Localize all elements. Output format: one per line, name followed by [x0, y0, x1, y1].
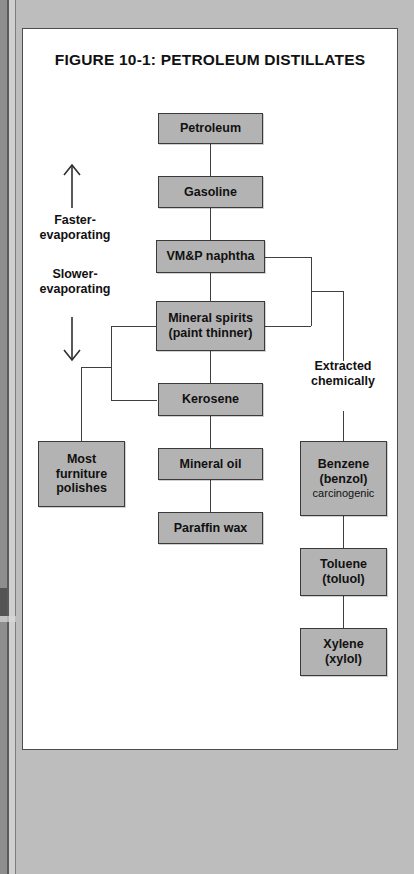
node-gasoline[interactable]: Gasoline	[158, 176, 263, 208]
scan-edge-rule-inner	[15, 0, 16, 874]
connector-left-to-polishes	[81, 367, 82, 441]
node-xylene-line2: (xylol)	[325, 652, 362, 667]
node-toluene-line2: (toluol)	[322, 572, 364, 587]
slower-evaporating-line2: evaporating	[40, 282, 111, 296]
scan-artifact	[0, 588, 7, 616]
scan-edge-dark	[0, 0, 7, 874]
node-naphtha[interactable]: VM&P naphtha	[156, 240, 265, 273]
node-mineral-oil[interactable]: Mineral oil	[158, 448, 263, 480]
connector-mineral-oil-paraffin	[210, 480, 211, 512]
node-furniture-polishes-line1: Most	[67, 452, 96, 467]
scan-artifact-highlight	[0, 616, 16, 622]
node-benzene-line2: (benzol)	[320, 472, 368, 487]
page-background: FIGURE 10-1: PETROLEUM DISTILLATES	[0, 0, 414, 874]
diagram-canvas: Petroleum Gasoline VM&P naphtha Mineral …	[23, 29, 399, 751]
arrow-down-icon	[61, 317, 83, 363]
extracted-chemically-label: Extracted chemically	[295, 359, 391, 389]
node-paraffin-wax[interactable]: Paraffin wax	[158, 512, 263, 544]
node-mineral-spirits[interactable]: Mineral spirits (paint thinner)	[156, 301, 265, 351]
node-benzene[interactable]: Benzene (benzol) carcinogenic	[300, 441, 387, 516]
connector-benzene-toluene	[343, 516, 344, 548]
faster-evaporating-line2: evaporating	[40, 228, 111, 242]
node-xylene[interactable]: Xylene (xylol)	[300, 628, 387, 676]
connector-naphtha-mineral-spirits	[210, 273, 211, 301]
node-mineral-oil-label: Mineral oil	[180, 457, 242, 472]
connector-extracted-to-benzene	[343, 411, 344, 441]
node-furniture-polishes[interactable]: Most furniture polishes	[38, 441, 125, 507]
connector-petroleum-gasoline	[210, 144, 211, 176]
node-kerosene[interactable]: Kerosene	[158, 383, 263, 416]
extracted-chemically-line2: chemically	[311, 374, 375, 388]
node-toluene-line1: Toluene	[320, 557, 367, 572]
connector-kerosene-left-stub	[111, 400, 157, 401]
node-kerosene-label: Kerosene	[182, 392, 239, 407]
extracted-chemically-line1: Extracted	[315, 359, 372, 373]
arrow-up-icon	[61, 162, 83, 208]
node-mineral-spirits-label-line2: (paint thinner)	[168, 326, 252, 341]
connector-right-jog	[311, 291, 343, 292]
connector-mineral-spirits-left-stub	[111, 326, 157, 327]
node-benzene-note: carcinogenic	[313, 487, 375, 500]
node-xylene-line1: Xylene	[323, 637, 363, 652]
node-naphtha-label: VM&P naphtha	[167, 249, 255, 264]
connector-mineral-spirits-kerosene	[210, 351, 211, 383]
node-paraffin-wax-label: Paraffin wax	[174, 521, 248, 536]
node-benzene-line1: Benzene	[318, 457, 369, 472]
figure-card: FIGURE 10-1: PETROLEUM DISTILLATES	[22, 28, 398, 750]
node-petroleum-label: Petroleum	[180, 121, 241, 136]
connector-kerosene-mineral-oil	[210, 416, 211, 448]
node-petroleum[interactable]: Petroleum	[158, 113, 263, 144]
connector-left-jog	[81, 367, 111, 368]
node-mineral-spirits-label-line1: Mineral spirits	[168, 311, 253, 326]
faster-evaporating-label: Faster- evaporating	[29, 213, 121, 243]
node-furniture-polishes-line3: polishes	[56, 481, 107, 496]
connector-left-riser	[111, 326, 112, 400]
connector-right-riser-2	[343, 291, 344, 361]
faster-evaporating-line1: Faster-	[54, 213, 96, 227]
node-gasoline-label: Gasoline	[184, 185, 237, 200]
slower-evaporating-label: Slower- evaporating	[29, 267, 121, 297]
connector-gasoline-naphtha	[210, 208, 211, 240]
connector-mineral-spirits-right-stub	[263, 326, 311, 327]
node-furniture-polishes-line2: furniture	[56, 467, 107, 482]
slower-evaporating-line1: Slower-	[52, 267, 97, 281]
connector-naphtha-right-stub	[263, 257, 311, 258]
connector-toluene-xylene	[343, 596, 344, 628]
node-toluene[interactable]: Toluene (toluol)	[300, 548, 387, 596]
